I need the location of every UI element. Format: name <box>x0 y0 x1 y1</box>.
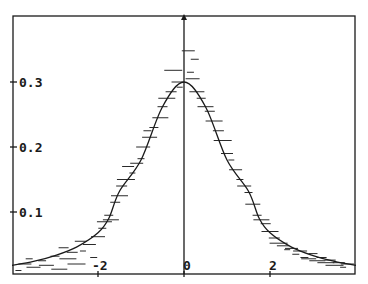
x-tick-label: 2 <box>269 258 277 273</box>
x-tick-label: 0 <box>183 258 191 273</box>
y-tick-label: 0.2 <box>19 140 42 155</box>
x-tick-label: -2 <box>92 258 108 273</box>
y-tick-label: 0.3 <box>19 75 42 90</box>
y-tick-label: 0.1 <box>19 205 43 220</box>
histogram-dashes <box>15 51 353 271</box>
chart: 0.10.20.3 -202 <box>0 0 368 284</box>
y-axis-arrow-icon <box>181 14 187 20</box>
y-axis-ticks: 0.10.20.3 <box>10 75 43 220</box>
